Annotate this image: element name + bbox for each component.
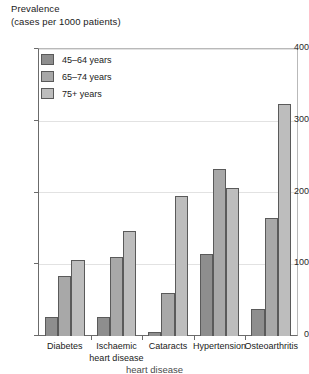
- bar: [58, 276, 71, 336]
- y-axis-tick-mark: [34, 192, 38, 193]
- y-axis-tick-mark: [34, 263, 38, 264]
- legend-label: 75+ years: [62, 89, 102, 99]
- bar: [148, 332, 161, 336]
- bar: [226, 188, 239, 336]
- figure-caption: heart disease: [0, 364, 309, 374]
- legend-label: 45–64 years: [62, 55, 112, 65]
- bar: [161, 293, 174, 336]
- y-axis-tick-mark: [34, 335, 38, 336]
- bar: [97, 317, 110, 336]
- bar-group: [200, 49, 240, 336]
- bar: [251, 309, 264, 336]
- bar: [200, 254, 213, 336]
- legend-swatch: [41, 54, 54, 65]
- legend-swatch: [41, 88, 54, 99]
- chart-legend: 45–64 years65–74 years75+ years: [41, 52, 112, 103]
- bar: [71, 260, 84, 337]
- bar: [123, 231, 136, 336]
- bar: [175, 196, 188, 336]
- x-axis-tick-mark: [245, 336, 246, 340]
- bar-group: [251, 49, 291, 336]
- x-axis-tick-mark: [142, 336, 143, 340]
- y-axis-tick-mark: [34, 120, 38, 121]
- x-axis-tick-mark: [91, 336, 92, 340]
- legend-label: 65–74 years: [62, 72, 112, 82]
- bar: [278, 104, 291, 336]
- bar: [110, 257, 123, 336]
- y-axis-tick-mark: [34, 48, 38, 49]
- legend-swatch: [41, 71, 54, 82]
- legend-item: 75+ years: [41, 86, 112, 101]
- bar: [45, 317, 58, 336]
- chart-plot-area: 0100200300400 DiabetesIschaemic heart di…: [0, 0, 309, 345]
- legend-item: 45–64 years: [41, 52, 112, 67]
- bar: [213, 169, 226, 336]
- bar: [265, 218, 278, 336]
- x-axis-tick-mark: [194, 336, 195, 340]
- x-axis-label: Osteoarthritis: [237, 341, 305, 353]
- legend-item: 65–74 years: [41, 69, 112, 84]
- bar-group: [148, 49, 188, 336]
